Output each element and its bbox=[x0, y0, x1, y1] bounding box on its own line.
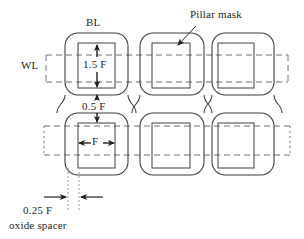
dimension-label-0-5f: 0.5 F bbox=[82, 101, 106, 112]
bitline-column-3 bbox=[204, 33, 282, 175]
dimension-label-1-5f: 1.5 F bbox=[83, 59, 107, 70]
pillar-mask-r1c3 bbox=[218, 43, 254, 88]
wordline-label: WL bbox=[21, 60, 39, 71]
bitline-cell-r1c3 bbox=[212, 33, 274, 95]
dimension-label-0-25f: 0.25 F bbox=[23, 205, 52, 216]
bitline-label: BL bbox=[86, 17, 100, 28]
bitline-cell-r1c2 bbox=[140, 33, 204, 95]
bl-neck-right-c3 bbox=[274, 95, 282, 113]
bl-neck-left-c1 bbox=[57, 95, 65, 113]
pillar-mask-arrow bbox=[178, 26, 196, 45]
dimension-label-f: F bbox=[92, 136, 98, 147]
bl-neck-left-c3 bbox=[204, 95, 212, 113]
oxide-spacer-label: oxide spacer bbox=[9, 220, 67, 231]
pillar-mask-r1c2 bbox=[152, 43, 190, 88]
pillar-mask-r2c3 bbox=[218, 123, 254, 168]
bitline-column-2 bbox=[132, 33, 212, 175]
bitline-cell-r2c3 bbox=[212, 113, 274, 175]
pillar-mask-r2c2 bbox=[152, 123, 190, 168]
pillar-mask-label: Pillar mask bbox=[190, 9, 242, 20]
bitline-cell-r2c2 bbox=[140, 113, 204, 175]
pillar-mask-pointer bbox=[178, 26, 196, 45]
figure-canvas: BL WL Pillar mask 1.5 F 0.5 F F 0.25 F o… bbox=[0, 0, 304, 239]
wordline-band-bottom bbox=[44, 126, 290, 155]
